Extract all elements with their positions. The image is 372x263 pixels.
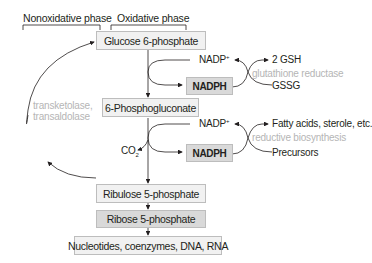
nadph-box-2: NADPH: [186, 144, 233, 162]
transaldolase-label: transaldolase: [33, 111, 90, 122]
glutathione-reductase-label: glutathione reductase: [252, 68, 343, 79]
nadp-plus-label-1: NADP+: [199, 54, 229, 65]
gssg-label: GSSG: [272, 80, 300, 91]
oxidative-phase-label: Oxidative phase: [117, 12, 189, 24]
precursors-label: Precursors: [272, 147, 318, 158]
transketolase-label: transketolase,: [33, 100, 92, 111]
ribose-5-phosphate-box: Ribose 5-phosphate: [96, 210, 206, 228]
6-phosphogluconate-box: 6-Phosphogluconate: [102, 98, 199, 117]
nonoxidative-phase-label: Nonoxidative phase: [23, 12, 112, 24]
fatty-acids-label: Fatty acids, sterole, etc.: [272, 118, 372, 129]
co2-label: CO2: [121, 145, 139, 158]
ribulose-5-phosphate-box: Ribulose 5-phosphate: [96, 184, 206, 203]
products-box: Nucleotides, coenzymes, DNA, RNA: [74, 236, 222, 255]
nadph-box-1: NADPH: [186, 77, 233, 95]
gsh-label: 2 GSH: [272, 54, 301, 65]
reductive-biosynthesis-label: reductive biosynthesis: [252, 132, 346, 143]
glucose-6-phosphate-box: Glucose 6-phosphate: [96, 31, 206, 50]
nadp-plus-label-2: NADP+: [199, 118, 229, 129]
